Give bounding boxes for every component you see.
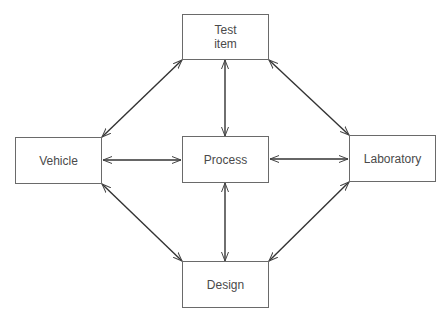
node-test-item: Test item	[182, 14, 269, 60]
node-process: Process	[182, 136, 269, 183]
node-process-label: Process	[204, 153, 247, 167]
arrow-laboratory-design	[269, 182, 349, 261]
node-design: Design	[182, 261, 269, 308]
node-test-item-label: Test item	[214, 23, 237, 51]
arrow-testitem-vehicle	[102, 60, 182, 137]
node-vehicle-label: Vehicle	[39, 154, 78, 168]
node-laboratory-label: Laboratory	[364, 152, 421, 166]
node-design-label: Design	[207, 278, 244, 292]
node-vehicle: Vehicle	[15, 137, 102, 184]
relationship-diagram: Test item Vehicle Process Laboratory Des…	[0, 0, 447, 316]
arrow-testitem-laboratory	[269, 60, 349, 135]
node-laboratory: Laboratory	[349, 135, 436, 182]
arrow-vehicle-design	[102, 184, 182, 261]
